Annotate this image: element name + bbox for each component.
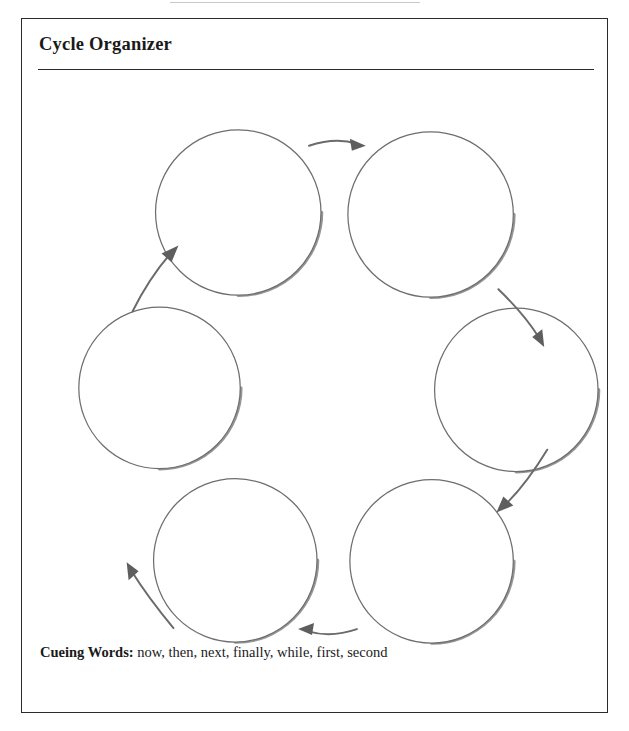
cycle-node-bottom-left[interactable]: [154, 479, 317, 642]
cycle-node-top-right[interactable]: [348, 132, 513, 297]
cycle-diagram-svg: [22, 81, 607, 651]
worksheet-frame: Cycle Organizer: [21, 18, 608, 713]
arrow-head-bottom: [298, 623, 314, 635]
cueing-words-label: Cueing Words:: [40, 644, 134, 660]
cueing-words-list: now, then, next, finally, while, first, …: [134, 644, 388, 660]
cycle-node-left[interactable]: [79, 307, 240, 468]
arrow-head-top: [350, 139, 366, 151]
cycle-node-right[interactable]: [435, 308, 598, 471]
title-divider: [38, 69, 594, 70]
cycle-diagram: [22, 81, 607, 651]
cycle-arrow-upper-left: [133, 245, 179, 311]
page-scan-artifact: [170, 2, 420, 3]
cycle-arrow-bottom: [298, 623, 357, 635]
cycle-arrow-top: [309, 139, 366, 151]
cueing-words: Cueing Words: now, then, next, finally, …: [40, 644, 387, 661]
cycle-node-top-left[interactable]: [156, 130, 321, 295]
cycle-node-bottom-right[interactable]: [350, 480, 513, 643]
node-group: [79, 130, 598, 643]
title-block: Cycle Organizer: [36, 29, 597, 77]
page-title: Cycle Organizer: [36, 29, 597, 54]
